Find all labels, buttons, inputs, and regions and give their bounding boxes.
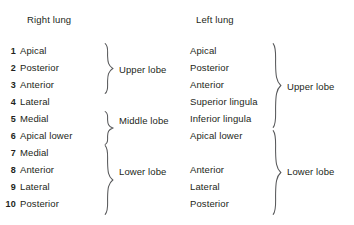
- right-lung-lobe-label-upper: Upper lobe: [119, 64, 166, 75]
- segment-row: 1 Apical: [0, 42, 100, 59]
- segment-row: 7 Medial: [0, 144, 100, 161]
- segment-name: Posterior: [16, 195, 59, 212]
- segment-name: Anterior: [16, 161, 54, 178]
- segment-name: Posterior: [16, 59, 59, 76]
- segment-number: 3: [0, 77, 16, 94]
- segment-number: 10: [0, 196, 16, 213]
- segment-name: Medial: [16, 144, 49, 161]
- segment-number: 8: [0, 162, 16, 179]
- segment-name: Apical: [190, 42, 216, 59]
- segment-row: 9 Lateral: [0, 178, 100, 195]
- lung-segments-diagram: Right lung Left lung 1 Apical 2 Posterio…: [0, 0, 354, 225]
- segment-row: 5 Medial: [0, 110, 100, 127]
- segment-name: Posterior: [190, 59, 229, 76]
- segment-number: 4: [0, 94, 16, 111]
- right-lung-lower-lobe-brace: [104, 145, 117, 215]
- left-lung-lower-lobe-brace: [272, 130, 285, 215]
- segment-number: 1: [0, 43, 16, 60]
- segment-number: 2: [0, 60, 16, 77]
- right-lung-lobe-label-middle: Middle lobe: [119, 115, 169, 126]
- segment-name: Posterior: [190, 195, 229, 212]
- right-lung-column-title: Right lung: [27, 14, 71, 25]
- segment-name: Lateral: [16, 178, 50, 195]
- right-lung-segment-list: 1 Apical 2 Posterior 3 Anterior 4 Latera…: [0, 42, 100, 212]
- segment-number: 9: [0, 179, 16, 196]
- segment-row: 3 Anterior: [0, 76, 100, 93]
- left-lung-column-title: Left lung: [196, 14, 234, 25]
- segment-row: 2 Posterior: [0, 59, 100, 76]
- segment-row: 6 Apical lower: [0, 127, 100, 144]
- segment-name: Apical: [16, 42, 46, 59]
- segment-name: Lateral: [190, 178, 220, 195]
- right-lung-lobe-label-lower: Lower lobe: [119, 166, 166, 177]
- segment-name: Medial: [16, 110, 49, 127]
- segment-name: Anterior: [16, 76, 54, 93]
- segment-name: Apical lower: [190, 127, 242, 144]
- right-lung-middle-lobe-brace: [104, 111, 117, 145]
- left-lung-lobe-label-upper: Upper lobe: [287, 81, 334, 92]
- segment-number: 7: [0, 145, 16, 162]
- left-lung-lobe-label-lower: Lower lobe: [287, 166, 334, 177]
- segment-name: Anterior: [190, 76, 224, 93]
- segment-name: Inferior lingula: [190, 110, 251, 127]
- segment-number: 6: [0, 128, 16, 145]
- right-lung-upper-lobe-brace: [104, 43, 117, 94]
- segment-name: Apical lower: [16, 127, 72, 144]
- segment-row: 4 Lateral: [0, 93, 100, 110]
- left-lung-upper-lobe-brace: [272, 43, 285, 128]
- segment-row: 8 Anterior: [0, 161, 100, 178]
- segment-number: 5: [0, 111, 16, 128]
- segment-name: Lateral: [16, 93, 50, 110]
- segment-name: Superior lingula: [190, 93, 258, 110]
- segment-row: 10 Posterior: [0, 195, 100, 212]
- segment-name: Anterior: [190, 161, 224, 178]
